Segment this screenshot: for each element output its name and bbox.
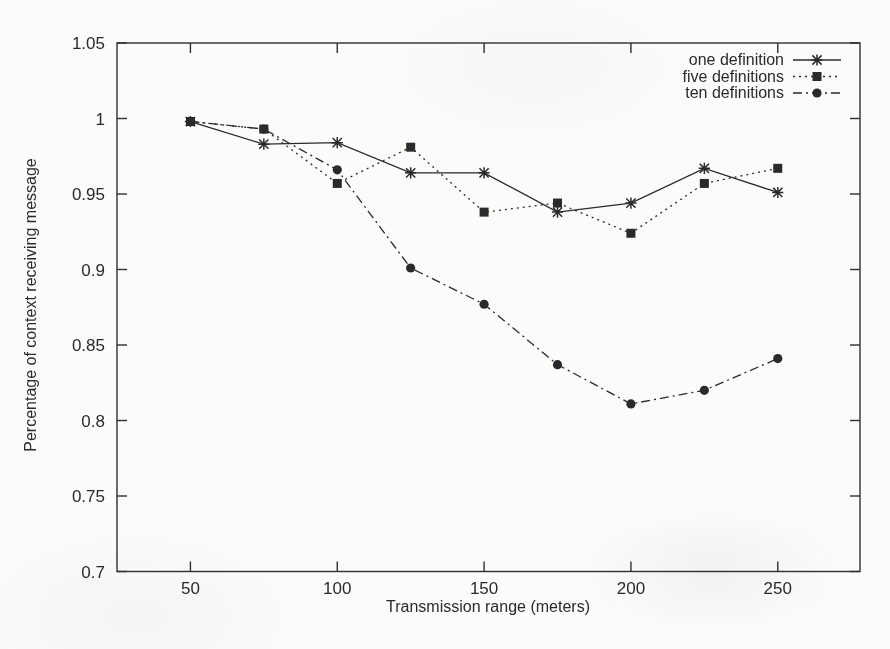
star-marker — [772, 187, 783, 198]
y-tick-label: 1.05 — [72, 34, 105, 53]
square-marker — [700, 179, 709, 188]
x-axis: 50100150200250 — [181, 43, 792, 598]
star-marker — [699, 163, 710, 174]
star-marker — [258, 139, 269, 150]
square-marker — [333, 179, 342, 188]
x-tick-label: 200 — [617, 579, 645, 598]
circle-marker — [553, 360, 562, 369]
star-marker — [405, 167, 416, 178]
y-axis-title: Percentage of context receiving message — [22, 158, 40, 452]
x-tick-label: 50 — [181, 579, 200, 598]
circle-marker — [626, 399, 635, 408]
circle-marker — [259, 124, 268, 133]
circle-marker — [186, 117, 195, 126]
legend: one definitionfive definitionsten defini… — [683, 51, 841, 101]
circle-marker — [700, 386, 709, 395]
y-tick-label: 0.8 — [81, 412, 105, 431]
circle-marker — [812, 88, 821, 97]
legend-label: five definitions — [683, 68, 784, 85]
circle-marker — [333, 165, 342, 174]
circle-marker — [773, 354, 782, 363]
star-marker — [332, 137, 343, 148]
square-marker — [813, 72, 822, 81]
star-marker — [478, 167, 489, 178]
square-marker — [773, 164, 782, 173]
circle-marker — [479, 300, 488, 309]
series-one-definition — [185, 116, 784, 218]
y-tick-label: 0.7 — [81, 563, 105, 582]
star-marker — [552, 207, 563, 218]
series-ten-definitions — [186, 117, 783, 409]
square-marker — [626, 229, 635, 238]
chart-container: 0.70.750.80.850.90.9511.0550100150200250… — [0, 0, 890, 649]
chart-svg: 0.70.750.80.850.90.9511.0550100150200250… — [0, 0, 890, 649]
square-marker — [480, 208, 489, 217]
y-tick-label: 1 — [96, 110, 105, 129]
star-marker — [811, 54, 822, 65]
y-tick-label: 0.85 — [72, 336, 105, 355]
x-tick-label: 250 — [764, 579, 792, 598]
star-marker — [625, 197, 636, 208]
x-tick-label: 150 — [470, 579, 498, 598]
legend-label: ten definitions — [685, 84, 784, 101]
square-marker — [406, 143, 415, 152]
x-axis-title: Transmission range (meters) — [386, 598, 590, 616]
legend-label: one definition — [689, 51, 784, 68]
circle-marker — [406, 263, 415, 272]
y-tick-label: 0.95 — [72, 185, 105, 204]
y-tick-label: 0.75 — [72, 487, 105, 506]
x-tick-label: 100 — [323, 579, 351, 598]
y-tick-label: 0.9 — [81, 261, 105, 280]
square-marker — [553, 199, 562, 208]
